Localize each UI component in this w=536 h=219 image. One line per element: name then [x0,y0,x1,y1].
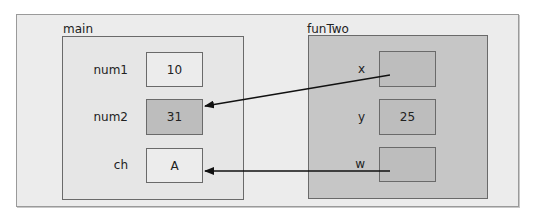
arrow-x-to-num2 [205,75,390,106]
reference-arrows [0,0,536,219]
